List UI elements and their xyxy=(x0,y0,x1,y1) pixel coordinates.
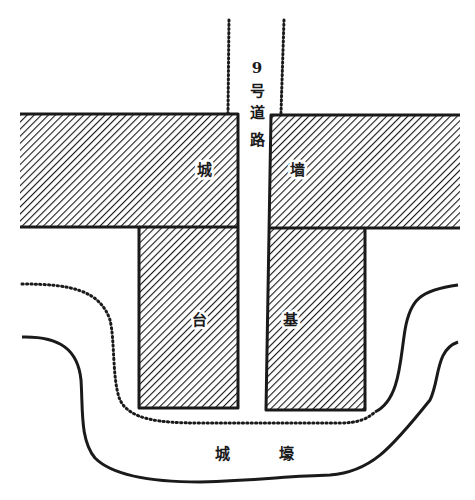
moat-label-left: 城 xyxy=(215,445,230,463)
city-wall-right xyxy=(266,115,460,410)
city-wall-left xyxy=(20,114,238,408)
road-label: 9 号 道 路 xyxy=(250,59,266,149)
base-label-right: 基 xyxy=(282,311,299,329)
svg-text:道: 道 xyxy=(250,104,265,122)
wall-label-right: 墙 xyxy=(290,161,305,179)
svg-text:号: 号 xyxy=(250,82,265,100)
moat-edge-inner xyxy=(375,285,458,412)
svg-text:路: 路 xyxy=(250,131,266,149)
wall-label-left: 城 xyxy=(197,161,212,179)
moat-label-right: 壕 xyxy=(279,445,295,463)
svg-text:9: 9 xyxy=(252,59,262,77)
base-label-left: 台 xyxy=(192,311,207,329)
moat-edge-outer xyxy=(22,337,458,482)
site-plan-diagram: 9 号 道 路 城 墙 台 基 城 壕 xyxy=(0,0,475,500)
